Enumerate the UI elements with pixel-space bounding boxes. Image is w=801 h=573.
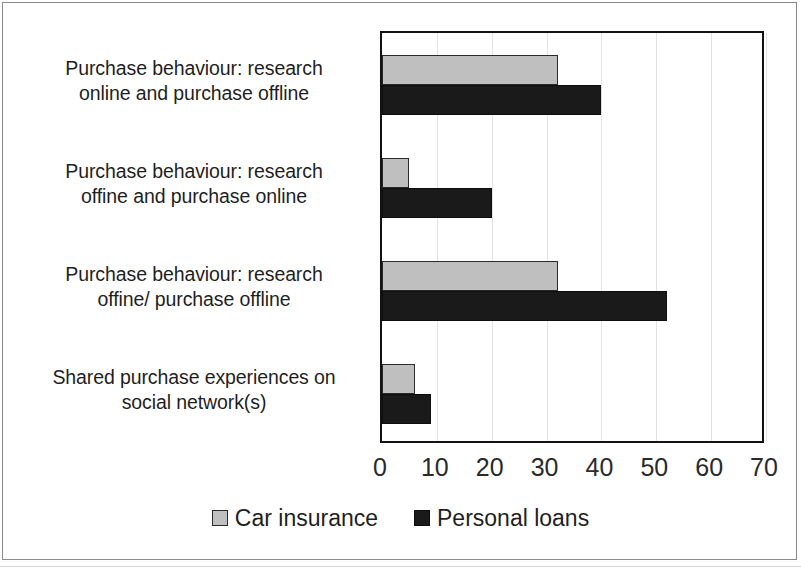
category-axis-labels: Purchase behaviour: researchonline and p… [14, 31, 374, 443]
legend-swatch-loans [414, 510, 430, 526]
category-label-line: offine/ purchase offline [14, 287, 374, 312]
bar-personal-loans [382, 85, 601, 115]
bar-car-insurance [382, 158, 409, 188]
bar-car-insurance [382, 364, 415, 394]
category-label: Purchase behaviour: researchoffine and p… [14, 159, 374, 209]
x-tick-label: 10 [421, 452, 449, 482]
plot-area [380, 31, 764, 443]
category-label: Shared purchase experiences onsocial net… [14, 365, 374, 415]
category-label-line: Purchase behaviour: research [14, 56, 374, 81]
category-label-line: Purchase behaviour: research [14, 159, 374, 184]
category-label: Purchase behaviour: researchoffine/ purc… [14, 262, 374, 312]
x-tick-label: 30 [531, 452, 559, 482]
bar-personal-loans [382, 394, 431, 424]
x-tick-label: 70 [750, 452, 778, 482]
x-tick-label: 20 [476, 452, 504, 482]
chart-legend: Car insurancePersonal loans [0, 505, 801, 531]
category-label-line: Shared purchase experiences on [14, 365, 374, 390]
legend-label: Car insurance [235, 505, 378, 531]
legend-label: Personal loans [437, 505, 589, 531]
x-tick-label: 50 [640, 452, 668, 482]
legend-item: Car insurance [212, 505, 378, 531]
bar-car-insurance [382, 261, 558, 291]
bar-car-insurance [382, 55, 558, 85]
category-label-line: social network(s) [14, 390, 374, 415]
category-label-line: offine and purchase online [14, 184, 374, 209]
bar-personal-loans [382, 188, 492, 218]
x-tick-label: 40 [586, 452, 614, 482]
x-axis-tick-labels: 010203040506070 [380, 452, 764, 486]
category-label: Purchase behaviour: researchonline and p… [14, 56, 374, 106]
category-label-line: online and purchase offline [14, 81, 374, 106]
legend-swatch-car [212, 510, 228, 526]
grouped-bar-chart: Purchase behaviour: researchonline and p… [0, 0, 801, 573]
x-tick-label: 60 [695, 452, 723, 482]
gridline [766, 33, 767, 441]
bar-personal-loans [382, 291, 667, 321]
category-label-line: Purchase behaviour: research [14, 262, 374, 287]
bars-layer [382, 33, 762, 441]
x-tick-label: 0 [373, 452, 387, 482]
legend-item: Personal loans [414, 505, 589, 531]
